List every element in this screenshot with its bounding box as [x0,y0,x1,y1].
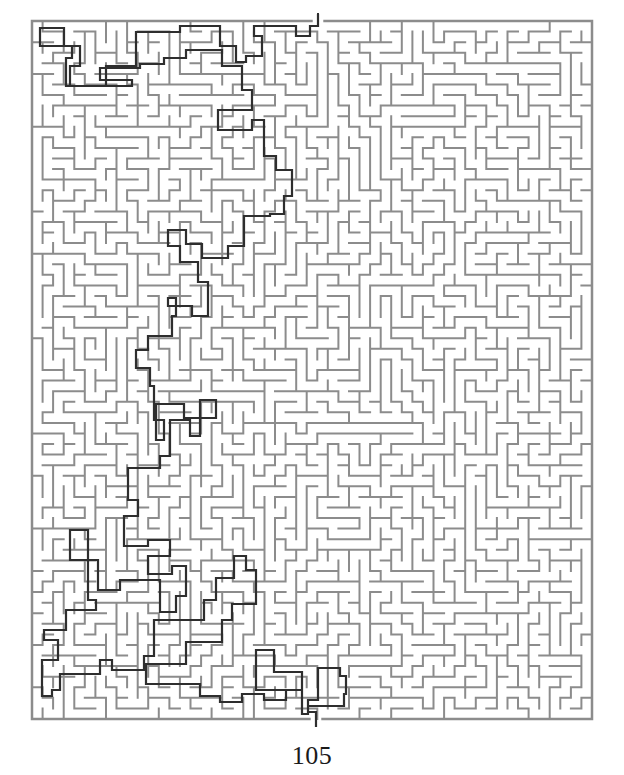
maze-walls [32,21,592,719]
maze-wall-segments [32,21,592,719]
maze [0,0,624,775]
page-number: 105 [0,741,624,771]
